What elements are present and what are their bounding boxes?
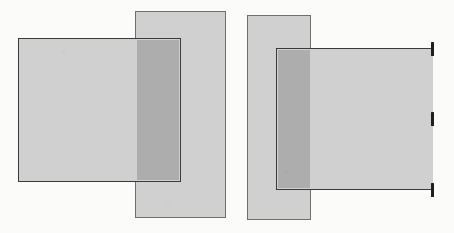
diagram-panel-right (227, 0, 454, 233)
diagram-panel-left (0, 0, 227, 233)
horizontal-rectangle-outline-left (18, 38, 181, 182)
horizontal-rectangle-open-outline-right (276, 48, 433, 190)
boundary-tick-top (431, 42, 434, 56)
boundary-tick-bottom (431, 183, 434, 197)
figure-canvas (0, 0, 454, 233)
boundary-tick-middle (431, 112, 434, 126)
